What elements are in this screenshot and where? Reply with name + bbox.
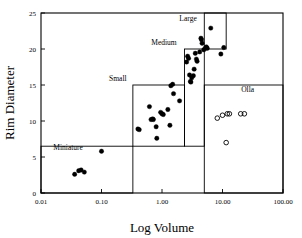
region-box-miniature [41,146,133,193]
region-label-medium: Medium [151,38,177,47]
data-point-ollas [220,113,225,118]
y-axis-ticks: 0510152025 [29,10,45,198]
data-point-jars [191,73,195,77]
region-label-large: Large [179,14,197,23]
region-label-miniature: Miniature [53,143,83,152]
data-points [72,26,246,177]
y-tick-label: 15 [29,82,37,90]
data-point-jars [198,50,202,54]
x-tick-label: 1.00 [156,198,169,206]
data-point-jars [193,51,197,55]
region-label-olla: Olla [241,85,255,94]
data-point-jars [186,56,190,60]
data-point-jars [137,127,141,131]
data-point-jars [189,80,193,84]
data-point-jars [170,82,174,86]
y-axis-title: Rim Diameter [2,65,17,140]
scatter-chart-figure: 0.010.101.0010.00100.00 0510152025 Minia… [0,0,302,238]
data-point-jars [168,123,172,127]
x-tick-label: 10.00 [215,198,231,206]
x-tick-label: 0.10 [95,198,108,206]
data-point-jars [200,41,204,45]
x-tick-label: 0.01 [35,198,48,206]
data-point-jars [166,107,170,111]
data-point-jars [155,136,159,140]
x-tick-label: 100.00 [273,198,293,206]
y-tick-label: 5 [33,154,37,162]
y-tick-label: 20 [29,46,37,54]
data-point-ollas [224,140,229,145]
region-labels: MiniatureSmallMediumLargeOlla [53,14,254,152]
data-point-jars [72,172,76,176]
data-point-jars [151,117,155,121]
data-point-jars [177,99,181,103]
data-point-jars [222,45,226,49]
region-box-olla [204,85,283,193]
y-tick-label: 25 [29,10,37,18]
data-point-jars [171,91,175,95]
chart-canvas: 0.010.101.0010.00100.00 0510152025 Minia… [0,0,302,238]
region-box-large [204,13,226,49]
data-point-ollas [215,116,220,121]
data-point-jars [99,149,103,153]
data-point-jars [195,59,199,63]
data-point-jars [147,104,151,108]
data-point-jars [192,67,196,71]
x-axis-ticks: 0.010.101.0010.00100.00 [35,189,293,206]
data-point-jars [219,52,223,56]
y-tick-label: 0 [33,190,37,198]
y-tick-label: 10 [29,118,37,126]
data-point-jars [209,26,213,30]
data-point-jars [161,112,165,116]
data-point-jars [154,125,158,129]
x-axis-title: Log Volume [130,220,194,235]
data-point-jars [82,170,86,174]
region-label-small: Small [109,74,127,83]
data-point-jars [205,46,209,50]
